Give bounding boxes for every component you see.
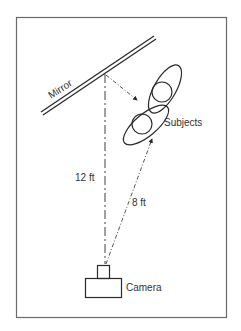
mirror-to-subjects-arrow [106,75,137,100]
mirror-camera-diagram: Mirror Subjects 12 ft 8 ft Camera [0,0,241,331]
mirror-shape [41,36,156,115]
camera-label: Camera [126,282,162,293]
distance-8ft-label: 8 ft [132,197,146,208]
camera-shape [86,266,122,298]
distance-12ft-label: 12 ft [75,172,95,183]
subjects-label: Subjects [164,117,202,128]
subjects-shape [117,60,188,151]
